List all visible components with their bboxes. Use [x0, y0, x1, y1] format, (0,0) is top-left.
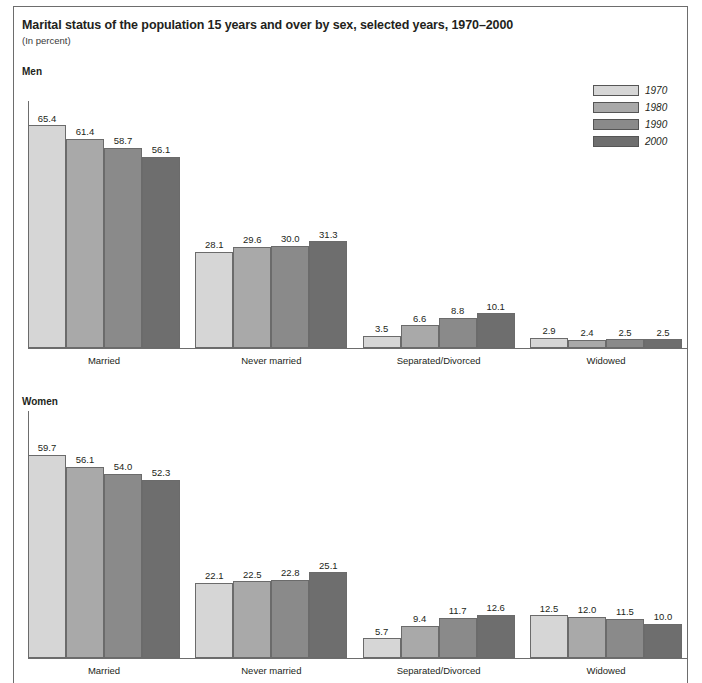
bar-value-label: 10.0: [644, 611, 682, 622]
bar: [401, 325, 439, 347]
bar: [195, 583, 233, 658]
bar: [439, 318, 477, 348]
bar: [309, 241, 347, 347]
bar: [66, 467, 104, 658]
legend-swatch-icon: [593, 85, 639, 96]
bar-value-label: 6.6: [401, 313, 439, 324]
bar: [530, 615, 568, 658]
category-label: Separated/Divorced: [363, 665, 515, 676]
category-label: Never married: [195, 665, 347, 676]
chart-men: 65.461.458.756.1Married28.129.630.031.3N…: [28, 100, 688, 349]
bar-value-label: 28.1: [195, 239, 233, 250]
category-label: Widowed: [530, 355, 682, 366]
bar: [271, 580, 309, 658]
bar-value-label: 9.4: [401, 613, 439, 624]
category-label: Married: [28, 665, 180, 676]
bar-value-label: 10.1: [477, 301, 515, 312]
bar-value-label: 59.7: [28, 442, 66, 453]
bar: [104, 474, 142, 658]
panel-label-women: Women: [22, 396, 58, 407]
bar: [309, 572, 347, 657]
bar: [606, 339, 644, 348]
bar-value-label: 22.5: [233, 569, 271, 580]
bar: [439, 618, 477, 658]
bar-value-label: 11.5: [606, 606, 644, 617]
bar-value-label: 58.7: [104, 135, 142, 146]
bar-value-label: 12.0: [568, 604, 606, 615]
bar: [644, 624, 682, 658]
bar-value-label: 61.4: [66, 126, 104, 137]
category-label: Separated/Divorced: [363, 355, 515, 366]
bar-value-label: 56.1: [66, 454, 104, 465]
bar-value-label: 54.0: [104, 461, 142, 472]
bar-value-label: 65.4: [28, 113, 66, 124]
category-label: Never married: [195, 355, 347, 366]
bar-value-label: 56.1: [142, 144, 180, 155]
bar-value-label: 31.3: [309, 229, 347, 240]
bar-value-label: 5.7: [363, 626, 401, 637]
bar: [195, 252, 233, 348]
bar: [363, 336, 401, 348]
bar-value-label: 12.6: [477, 602, 515, 613]
x-axis-line: [28, 348, 688, 349]
bar: [104, 148, 142, 348]
bar: [363, 638, 401, 657]
bar: [233, 581, 271, 658]
category-label: Widowed: [530, 665, 682, 676]
x-axis-line: [28, 658, 688, 659]
bar: [142, 157, 180, 348]
bar: [142, 480, 180, 658]
bar: [606, 619, 644, 658]
bar-value-label: 29.6: [233, 234, 271, 245]
bar-value-label: 25.1: [309, 560, 347, 571]
figure-page: Marital status of the population 15 year…: [0, 0, 702, 683]
bar-value-label: 2.4: [568, 327, 606, 338]
bar: [568, 617, 606, 658]
bar-value-label: 30.0: [271, 233, 309, 244]
panel-label-men: Men: [22, 66, 42, 77]
bar-value-label: 52.3: [142, 467, 180, 478]
bar: [477, 615, 515, 658]
chart-women: 59.756.154.052.3Married22.122.522.825.1N…: [28, 410, 688, 659]
bar: [644, 339, 682, 348]
bar-value-label: 11.7: [439, 605, 477, 616]
bar: [477, 313, 515, 347]
bar: [233, 247, 271, 348]
bar-value-label: 2.5: [606, 327, 644, 338]
bar: [530, 338, 568, 348]
bar-value-label: 22.1: [195, 570, 233, 581]
bar: [66, 139, 104, 348]
bar-value-label: 3.5: [363, 323, 401, 334]
figure-title: Marital status of the population 15 year…: [22, 18, 513, 32]
legend-label: 1970: [645, 84, 667, 97]
bar: [28, 125, 66, 347]
bar: [568, 340, 606, 348]
bar-value-label: 8.8: [439, 305, 477, 316]
bar: [401, 626, 439, 658]
legend-item: 1970: [593, 84, 688, 99]
category-label: Married: [28, 355, 180, 366]
bar-value-label: 2.5: [644, 327, 682, 338]
figure-subtitle: (In percent): [22, 35, 71, 46]
bar-value-label: 12.5: [530, 603, 568, 614]
bar-value-label: 2.9: [530, 325, 568, 336]
bar: [28, 455, 66, 658]
bar-value-label: 22.8: [271, 567, 309, 578]
bar: [271, 246, 309, 348]
